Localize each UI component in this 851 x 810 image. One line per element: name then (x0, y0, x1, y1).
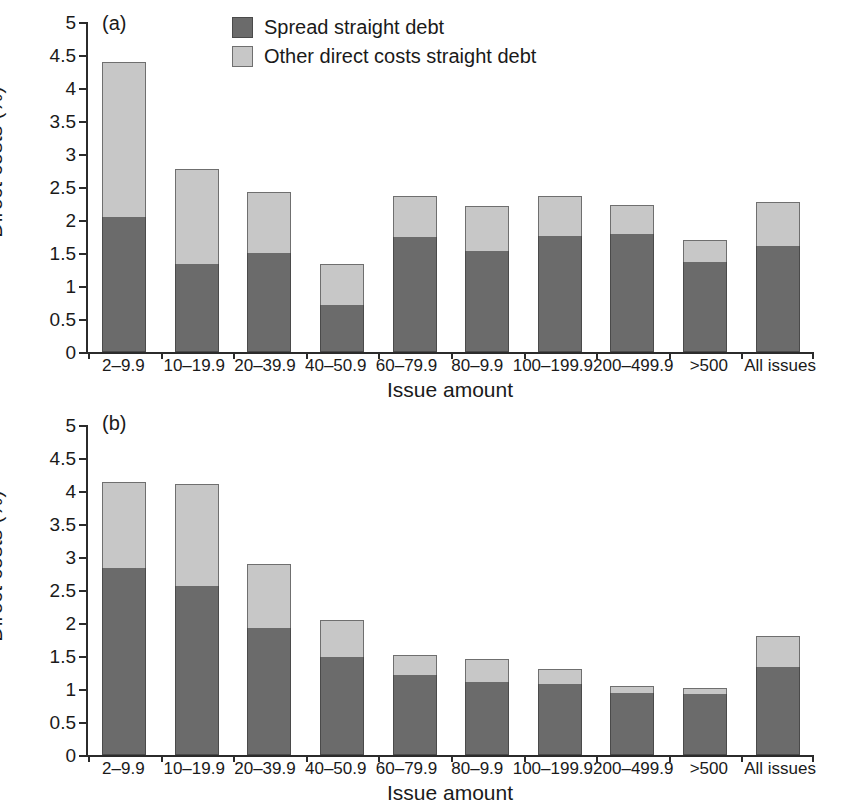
bar-segment-other-direct-costs[interactable] (465, 206, 509, 251)
bar-segment-spread[interactable] (320, 305, 364, 352)
stacked-bar[interactable] (756, 636, 800, 755)
y-tick-label: 3 (65, 145, 76, 164)
y-tick-label: 1.5 (50, 244, 76, 263)
bar-segment-other-direct-costs[interactable] (247, 564, 291, 627)
stacked-bar[interactable] (465, 659, 509, 755)
stacked-bar[interactable] (393, 655, 437, 755)
x-tick-label: 60–79.9 (371, 759, 442, 779)
bar-segment-spread[interactable] (102, 568, 146, 755)
y-tick-label: 2 (65, 211, 76, 230)
bar-segment-other-direct-costs[interactable] (538, 669, 582, 684)
bar-segment-other-direct-costs[interactable] (756, 202, 800, 246)
y-tick-label: 0 (65, 343, 76, 362)
x-tick-label: All issues (744, 759, 816, 779)
stacked-bar[interactable] (683, 688, 727, 755)
bar-slot (233, 22, 306, 352)
bar-segment-spread[interactable] (393, 675, 437, 755)
bar-segment-other-direct-costs[interactable] (102, 482, 146, 567)
bar-segment-other-direct-costs[interactable] (393, 196, 437, 237)
y-axis-title-a: Direct costs (%) (0, 86, 7, 237)
bar-segment-other-direct-costs[interactable] (538, 196, 582, 236)
stacked-bar[interactable] (393, 196, 437, 352)
bar-segment-other-direct-costs[interactable] (610, 686, 654, 693)
stacked-bar[interactable] (102, 482, 146, 755)
bar-segment-spread[interactable] (102, 217, 146, 352)
plot-area-b: 54.543.532.521.510.50 (86, 425, 814, 755)
bar-segment-spread[interactable] (465, 682, 509, 755)
bar-segment-other-direct-costs[interactable] (683, 240, 727, 262)
bar-segment-spread[interactable] (247, 253, 291, 352)
y-tick-label: 2.5 (50, 178, 76, 197)
bar-segment-spread[interactable] (320, 657, 364, 755)
stacked-bar[interactable] (247, 192, 291, 352)
bar-segment-spread[interactable] (610, 234, 654, 352)
bar-segment-spread[interactable] (175, 586, 219, 755)
y-tick-mark (79, 286, 86, 288)
y-tick-label: 4.5 (50, 449, 76, 468)
stacked-bar[interactable] (247, 564, 291, 755)
bar-slot (669, 425, 742, 755)
y-tick-mark (79, 154, 86, 156)
bar-slot (741, 22, 814, 352)
bar-slot (88, 425, 161, 755)
stacked-bar[interactable] (465, 206, 509, 352)
bar-slot (88, 22, 161, 352)
bar-segment-spread[interactable] (756, 667, 800, 755)
x-tick-label: All issues (744, 356, 816, 376)
bar-segment-spread[interactable] (683, 694, 727, 755)
figure-direct-costs-by-issue-amount: { "colors": { "spread": "#6b6b6b", "othe… (0, 0, 851, 810)
bar-segment-other-direct-costs[interactable] (465, 659, 509, 682)
y-tick-mark (79, 491, 86, 493)
x-tick-label: 40–50.9 (300, 356, 371, 376)
bar-slot (306, 22, 379, 352)
stacked-bar[interactable] (175, 484, 219, 755)
panel-tag-b: (b) (102, 412, 126, 435)
bar-segment-other-direct-costs[interactable] (175, 169, 219, 264)
x-tick-label: 100–199.9 (513, 759, 593, 779)
y-tick-label: 3 (65, 548, 76, 567)
bar-segment-other-direct-costs[interactable] (320, 264, 364, 306)
bar-slot (378, 22, 451, 352)
bar-segment-spread[interactable] (538, 684, 582, 755)
y-axis-title-b: Direct costs (%) (0, 490, 7, 641)
bar-segment-spread[interactable] (683, 262, 727, 352)
stacked-bar[interactable] (610, 205, 654, 352)
bar-segment-spread[interactable] (393, 237, 437, 353)
stacked-bar[interactable] (756, 202, 800, 352)
bar-segment-other-direct-costs[interactable] (393, 655, 437, 675)
chart-panel-a: (a) Spread straight debt Other direct co… (0, 0, 851, 404)
bar-slot (596, 22, 669, 352)
bar-segment-spread[interactable] (538, 236, 582, 352)
bar-segment-other-direct-costs[interactable] (247, 192, 291, 253)
bar-segment-other-direct-costs[interactable] (320, 620, 364, 656)
stacked-bar[interactable] (102, 62, 146, 352)
bar-slot (161, 425, 234, 755)
stacked-bar[interactable] (175, 169, 219, 352)
stacked-bar[interactable] (320, 620, 364, 755)
bar-segment-spread[interactable] (465, 251, 509, 352)
y-tick-label: 3.5 (50, 112, 76, 131)
y-tick-label: 1 (65, 680, 76, 699)
bar-segment-spread[interactable] (175, 264, 219, 352)
y-tick-label: 2.5 (50, 581, 76, 600)
bar-segment-spread[interactable] (247, 628, 291, 755)
bar-segment-other-direct-costs[interactable] (610, 205, 654, 234)
y-tick-mark (79, 590, 86, 592)
y-tick-mark (79, 121, 86, 123)
x-tick-label: 40–50.9 (300, 759, 371, 779)
stacked-bar[interactable] (538, 196, 582, 352)
stacked-bar[interactable] (320, 264, 364, 352)
bar-slot (306, 425, 379, 755)
bar-segment-other-direct-costs[interactable] (756, 636, 800, 666)
stacked-bar[interactable] (538, 669, 582, 755)
bar-segment-other-direct-costs[interactable] (102, 62, 146, 216)
y-tick-label: 1.5 (50, 647, 76, 666)
stacked-bar[interactable] (683, 240, 727, 352)
stacked-bar[interactable] (610, 686, 654, 755)
y-tick-label: 1 (65, 277, 76, 296)
bar-segment-spread[interactable] (610, 693, 654, 755)
x-tick-label: >500 (673, 356, 744, 376)
bar-segment-other-direct-costs[interactable] (175, 484, 219, 586)
bar-segment-spread[interactable] (756, 246, 800, 352)
x-tick-label: 20–39.9 (230, 356, 301, 376)
